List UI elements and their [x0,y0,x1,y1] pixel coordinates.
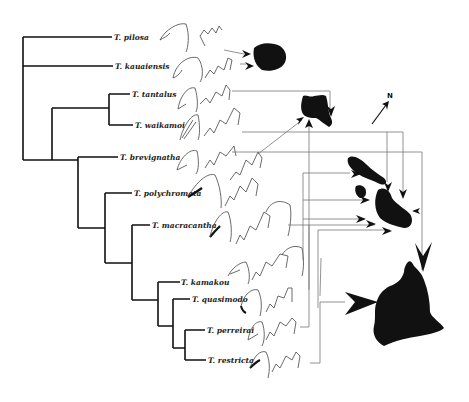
arrow-icon [366,220,376,228]
fang-tip [241,306,246,313]
branch-oahu-clade [52,94,133,160]
taxon-label: T. brevignatha [120,153,180,162]
hawaiian-islands-map [253,43,444,346]
taxon-label: T. tantalus [132,90,177,99]
branch-macracantha [105,225,150,300]
taxon-label: T. quasimodo [192,295,248,304]
fang-outline [160,24,188,52]
island-lanai [355,185,366,198]
tooth-row-outline [205,58,232,78]
taxon-label: T. waikamoi [135,121,185,130]
north-arrow-icon [372,105,386,124]
tooth-row-outline [266,288,292,312]
arrow-icon [412,208,420,214]
phylogeny-figure: T. pilosa T. kauaiensis T. tantalus T. w… [0,0,469,402]
tooth-row-outline [282,246,304,276]
tooth-row-outline [200,26,222,46]
tooth-row-outline [230,152,262,180]
branch-root-lower [23,66,52,160]
island-hawaii [373,261,444,346]
island-maui [375,188,412,228]
taxon-label: T. perreirai [207,326,254,335]
connector-macracantha [303,173,365,260]
tooth-row-outline [225,178,258,206]
tooth-row-outline [252,254,288,280]
island-kauai [253,43,286,71]
connector-brevignatha [258,120,302,154]
taxon-labels: T. pilosa T. kauaiensis T. tantalus T. w… [114,33,254,365]
connector-waikamoi [242,132,403,195]
fang-outline [178,88,197,112]
tooth-row-outline [272,352,300,372]
tooth-row-outline [236,212,270,244]
arrow-icon [382,227,392,235]
compass: N [372,92,393,124]
connector-restricta [310,302,345,363]
taxon-label: T. kamakou [181,278,230,287]
fang-outline [173,57,202,82]
tooth-row-outline [205,146,236,168]
connector-pilosa [224,50,244,54]
branch-perreirai-restricta [173,330,206,360]
tooth-row-outline [200,85,230,104]
phylogenetic-tree [23,37,206,360]
taxon-label: T. pilosa [114,33,149,42]
fang-outline [228,262,249,284]
arrow-icon [245,62,254,70]
island-molokai [348,156,386,184]
large-arrow-icon [415,242,432,272]
island-oahu [301,95,332,127]
taxon-label: T. macracantha [152,221,217,230]
taxon-label: T. restricta [208,356,254,365]
branch-polychromata [78,193,132,263]
taxon-label: T. kauaiensis [115,62,170,71]
branch-root [23,37,113,66]
tooth-row-outline [266,318,296,340]
compass-label: N [387,92,393,100]
tooth-row-outline [204,108,240,136]
large-arrow-icon [345,292,378,315]
